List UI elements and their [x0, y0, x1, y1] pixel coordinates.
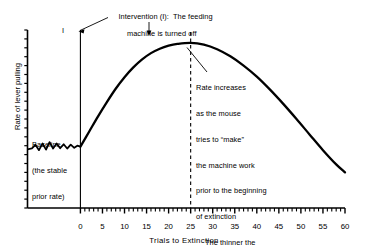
x-tick-label: 30	[204, 222, 222, 231]
annotation-baseline-line3: prior rate)	[32, 193, 67, 202]
x-axis-title: Trials to Extinction	[0, 236, 368, 245]
x-tick-label: 60	[336, 222, 354, 231]
annotation-rate-line4: the machine work	[196, 162, 284, 171]
annotation-rate-line1: Rate increases	[196, 84, 284, 93]
x-tick-label: 20	[160, 222, 178, 231]
x-tick-label: 35	[226, 222, 244, 231]
x-tick-label: 50	[292, 222, 310, 231]
x-tick-label: 40	[248, 222, 266, 231]
x-tick-label: 55	[314, 222, 332, 231]
annotation-baseline-line2: (the stable	[32, 167, 67, 176]
annotation-rate-line3: tries to “make”	[196, 136, 284, 145]
annotation-rate-line5: prior to the beginning	[196, 187, 284, 196]
y-axis-ticks	[24, 30, 27, 208]
annotation-intervention-line1: Intervention (I): The feeding	[118, 12, 212, 21]
intervention-marker-label: I	[62, 26, 64, 35]
x-tick-label: 15	[138, 222, 156, 231]
x-tick-label: 10	[116, 222, 134, 231]
annotation-intervention: Intervention (I): The feeding machine is…	[110, 4, 213, 56]
x-tick-label: 25	[182, 222, 200, 231]
y-axis-title: Rate of lever pulling	[13, 55, 22, 139]
extinction-curve-figure: Intervention (I): The feeding machine is…	[0, 0, 368, 252]
annotation-rate-line2: as the mouse	[196, 110, 284, 119]
x-tick-label: 0	[71, 222, 89, 231]
annotation-rate-line6: of extinction	[196, 213, 284, 222]
annotation-intervention-line2: machine is turned off	[110, 30, 213, 39]
annotation-baseline: Baseline (the stable prior rate)	[32, 124, 67, 219]
x-tick-label: 5	[93, 222, 111, 231]
x-tick-label: 45	[270, 222, 288, 231]
annotation-baseline-line1: Baseline	[32, 141, 67, 150]
